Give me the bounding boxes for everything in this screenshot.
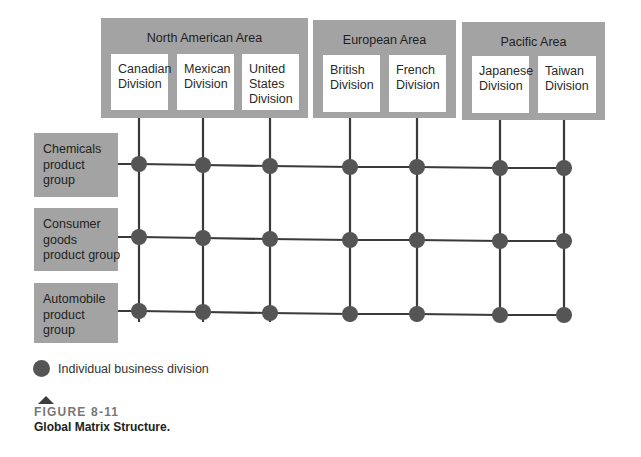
figure-number: FIGURE 8-11	[34, 405, 119, 419]
business-division-node	[342, 306, 358, 322]
business-division-node	[262, 231, 278, 247]
legend: Individual business division	[33, 360, 209, 377]
business-division-node	[409, 306, 425, 322]
area-pacific: Pacific Area Japanese Division Taiwan Di…	[462, 22, 605, 120]
product-group-consumer-goods: Consumer goods product group	[34, 208, 118, 271]
triangle-marker-icon	[38, 396, 54, 404]
area-title: Pacific Area	[462, 35, 605, 49]
division-taiwan: Taiwan Division	[538, 56, 596, 113]
division-japanese: Japanese Division	[472, 56, 529, 113]
business-division-node-icon	[33, 360, 50, 377]
business-division-node	[262, 158, 278, 174]
legend-label: Individual business division	[58, 362, 209, 376]
division-canadian: Canadian Division	[111, 54, 168, 110]
business-division-node	[195, 230, 211, 246]
business-division-node	[195, 157, 211, 173]
business-division-node	[195, 304, 211, 320]
area-european: European Area British Division French Di…	[313, 20, 456, 118]
product-group-automobile: Automobile product group	[34, 283, 118, 343]
area-north-american: North American Area Canadian Division Me…	[101, 18, 308, 118]
business-division-node	[131, 156, 147, 172]
product-group-chemicals: Chemicals product group	[34, 133, 118, 197]
business-division-node	[556, 307, 572, 323]
business-division-node	[131, 303, 147, 319]
figure-title: Global Matrix Structure.	[34, 420, 170, 434]
business-division-node	[409, 232, 425, 248]
business-division-node	[409, 159, 425, 175]
business-division-node	[342, 232, 358, 248]
business-division-node	[262, 305, 278, 321]
business-division-node	[492, 307, 508, 323]
area-title: North American Area	[101, 31, 308, 45]
business-division-node	[342, 159, 358, 175]
business-division-node	[492, 233, 508, 249]
business-division-node	[556, 233, 572, 249]
business-division-node	[556, 160, 572, 176]
division-french: French Division	[389, 55, 446, 112]
division-mexican: Mexican Division	[177, 54, 234, 110]
business-division-node	[492, 160, 508, 176]
area-title: European Area	[313, 33, 456, 47]
division-united-states: United States Division	[242, 54, 299, 110]
division-british: British Division	[323, 55, 380, 112]
business-division-node	[131, 229, 147, 245]
